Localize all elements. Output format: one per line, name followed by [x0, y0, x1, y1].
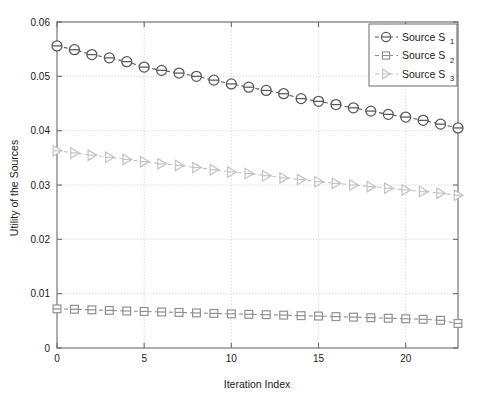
y-tick-label: 0.04 — [31, 125, 51, 136]
data-point-marker — [436, 119, 446, 129]
data-point-marker — [437, 316, 445, 324]
data-point-marker — [454, 320, 462, 328]
x-axis-title: Iteration Index — [224, 378, 291, 390]
data-point-marker — [453, 123, 463, 133]
data-point-marker — [226, 79, 236, 89]
data-point-marker — [366, 106, 376, 116]
data-point-marker — [402, 315, 410, 323]
y-tick-label: 0.02 — [31, 234, 51, 245]
data-point-marker — [315, 312, 323, 320]
data-point-marker — [122, 57, 132, 67]
legend-subscript-3: 3 — [450, 74, 454, 83]
data-point-marker — [158, 308, 166, 316]
data-point-marker — [104, 53, 114, 63]
data-point-marker — [280, 311, 288, 319]
data-point-marker — [193, 309, 201, 317]
legend-label-1: Source S — [402, 31, 445, 43]
data-point-marker — [332, 313, 340, 321]
data-point-marker — [71, 305, 79, 313]
x-tick-label: 15 — [313, 353, 325, 364]
data-point-marker — [105, 307, 113, 315]
y-tick-label: 0.03 — [31, 180, 51, 191]
data-point-marker — [383, 109, 393, 119]
data-point-marker — [279, 89, 289, 99]
data-point-marker — [139, 62, 149, 72]
legend-label-3: Source S — [402, 68, 445, 80]
data-point-marker — [210, 309, 218, 317]
data-point-marker — [123, 307, 131, 315]
chart-figure: 00.010.020.030.040.050.0605101520 Source… — [0, 0, 482, 405]
data-point-marker — [384, 314, 392, 322]
legend-label-2: Source S — [402, 49, 445, 61]
data-point-marker — [296, 94, 306, 104]
chart-legend[interactable]: Source S1Source S2Source S3 — [369, 24, 457, 86]
data-point-marker — [245, 310, 253, 318]
y-tick-label: 0.05 — [31, 71, 51, 82]
data-point-marker — [244, 82, 254, 92]
utility-of-sources-line-chart: 00.010.020.030.040.050.0605101520 Source… — [0, 0, 482, 405]
data-point-marker — [367, 314, 375, 322]
data-point-marker — [262, 311, 270, 319]
y-axis-title: Utility of the Sources — [8, 140, 20, 236]
y-tick-label: 0 — [44, 343, 50, 354]
x-tick-label: 5 — [141, 353, 147, 364]
data-point-marker — [297, 312, 305, 320]
data-point-marker — [314, 96, 324, 106]
data-point-marker — [227, 310, 235, 318]
data-point-marker — [418, 115, 428, 125]
legend-subscript-2: 2 — [450, 56, 454, 65]
x-tick-label: 10 — [226, 353, 238, 364]
data-point-marker — [348, 103, 358, 113]
data-point-marker — [331, 100, 341, 110]
data-point-marker — [401, 112, 411, 122]
data-point-marker — [349, 313, 357, 321]
data-point-marker — [88, 306, 96, 314]
legend-subscript-1: 1 — [450, 37, 454, 46]
data-point-marker — [382, 52, 389, 59]
data-point-marker — [174, 68, 184, 78]
data-point-marker — [53, 305, 61, 313]
data-point-marker — [419, 315, 427, 323]
data-point-marker — [381, 32, 390, 41]
data-point-marker — [52, 41, 62, 51]
x-tick-label: 20 — [400, 353, 412, 364]
data-point-marker — [140, 308, 148, 316]
y-tick-label: 0.06 — [31, 17, 51, 28]
data-point-marker — [69, 45, 79, 55]
data-point-marker — [157, 65, 167, 75]
data-point-marker — [209, 75, 219, 85]
y-tick-label: 0.01 — [31, 288, 51, 299]
data-point-marker — [191, 71, 201, 81]
x-tick-label: 0 — [54, 353, 60, 364]
data-point-marker — [87, 50, 97, 60]
data-point-marker — [175, 309, 183, 317]
data-point-marker — [261, 85, 271, 95]
